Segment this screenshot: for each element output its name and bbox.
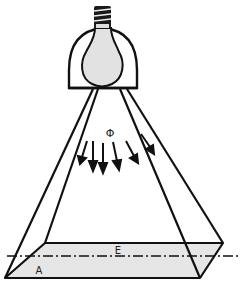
flux-label: Φ <box>106 127 115 140</box>
illumination-diagram: Φ E A <box>0 0 240 287</box>
area-label: A <box>36 265 43 276</box>
socket-icon <box>94 6 111 28</box>
illuminance-label: E <box>115 245 121 256</box>
